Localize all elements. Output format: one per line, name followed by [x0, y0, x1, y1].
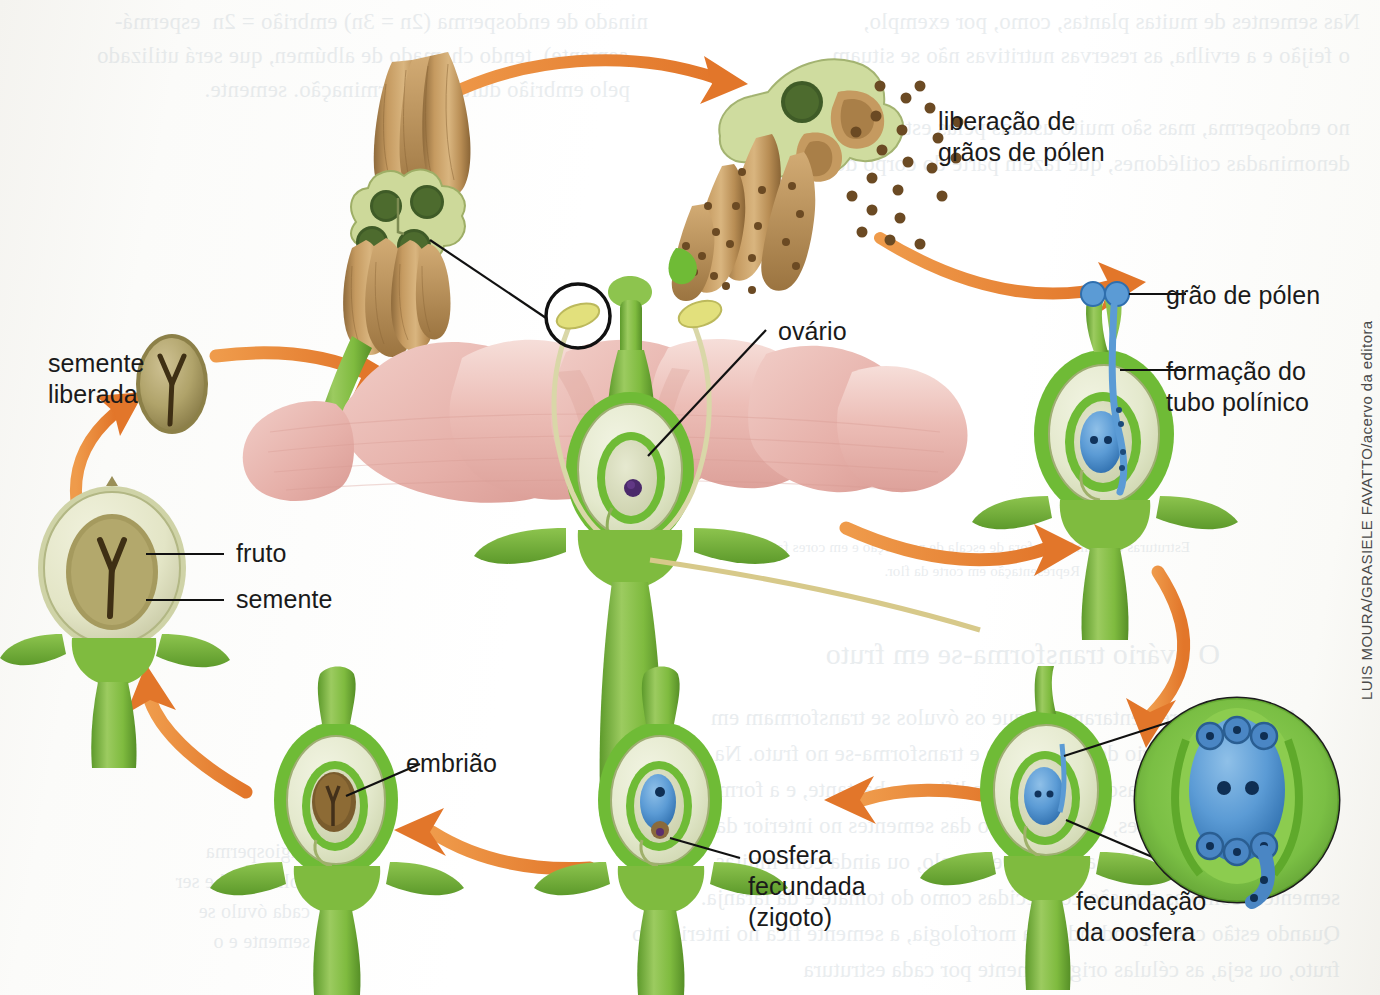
- label-ovary: ovário: [778, 316, 847, 347]
- label-fruit: fruto: [236, 538, 287, 569]
- arrow-zygote-to-embryo: [394, 808, 590, 869]
- angiosperm-life-cycle-figure: ninado de endosperma (2n = 3n) embrião =…: [0, 0, 1380, 995]
- label-pollen-release: liberação de grãos de pólen: [938, 106, 1105, 168]
- label-seed-released: semente liberada: [48, 348, 145, 410]
- stamen-anther-left-highlighted: [546, 284, 610, 348]
- label-fertilized-oosphere: oosfera fecundada (zigoto): [748, 840, 866, 933]
- label-pollen-grain: grão de pólen: [1166, 280, 1320, 311]
- fruit-with-seed-group: [0, 476, 230, 768]
- arrow-embryo-to-fruit: [126, 664, 246, 792]
- pollen-tube-ovule-group: [972, 282, 1238, 640]
- illustration-canvas: [0, 0, 1380, 995]
- embryo-sac-magnifier: [1135, 698, 1339, 902]
- arrow-anther-to-pollen: [418, 56, 748, 112]
- arrow-flower-to-ovule: [846, 524, 1082, 576]
- zygote-ovule-group: [534, 667, 788, 995]
- label-oosphere-fertilization: fecundação da oosfera: [1076, 886, 1206, 948]
- anther-body: [343, 238, 450, 357]
- label-seed: semente: [236, 584, 333, 615]
- label-pollen-tube-formation: formação do tubo polínico: [1166, 356, 1309, 418]
- arrow-fertilization-to-zygote: [824, 776, 1004, 824]
- image-credit: LUIS MOURA/GRASIELE FAVATTO/acervo da ed…: [1358, 320, 1375, 700]
- antipodal-cells: [1197, 717, 1277, 749]
- label-embryo: embrião: [406, 748, 497, 779]
- released-seed-group: [136, 334, 208, 434]
- flower-sepals-pedicel: [474, 528, 980, 800]
- stamen-anther-right: [675, 296, 724, 332]
